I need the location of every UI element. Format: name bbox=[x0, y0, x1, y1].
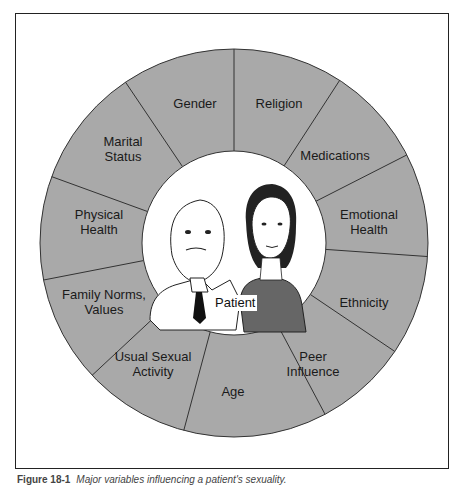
figure-number: Figure 18-1 bbox=[17, 474, 70, 485]
figure-caption: Figure 18-1Major variables influencing a… bbox=[17, 474, 287, 485]
segment-label: Physical Health bbox=[75, 207, 123, 237]
caption-text: Major variables influencing a patient's … bbox=[76, 474, 286, 485]
segment-label: Emotional Health bbox=[340, 207, 398, 237]
segment-label: Medications bbox=[300, 148, 369, 163]
segment-label: Age bbox=[221, 384, 244, 399]
center-label: Patient bbox=[213, 295, 257, 311]
segment-label: Marital Status bbox=[103, 134, 142, 164]
segment-label: Family Norms, Values bbox=[62, 287, 146, 317]
segment-label: Ethnicity bbox=[339, 295, 388, 310]
segment-label: Usual Sexual Activity bbox=[115, 349, 192, 379]
segment-label: Religion bbox=[256, 96, 303, 111]
segment-label: Peer Influence bbox=[287, 349, 340, 379]
segment-label: Gender bbox=[173, 96, 216, 111]
